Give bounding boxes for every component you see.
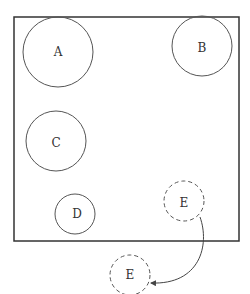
circle-c-label: C xyxy=(51,136,60,150)
circle-b: B xyxy=(172,16,232,76)
circle-e-outside-label: E xyxy=(126,268,135,282)
circle-e-inside-label: E xyxy=(180,196,189,210)
circle-b-label: B xyxy=(198,41,207,55)
circle-a-label: A xyxy=(53,45,63,59)
circle-e-outside: E xyxy=(110,255,150,294)
circle-e-inside: E xyxy=(164,181,204,221)
circle-a: A xyxy=(23,17,93,87)
move-arrow xyxy=(151,217,203,283)
circle-d: D xyxy=(55,194,95,234)
circle-c: C xyxy=(26,111,86,171)
diagram-canvas: A B C D E E xyxy=(0,0,250,294)
circle-d-label: D xyxy=(72,207,82,221)
